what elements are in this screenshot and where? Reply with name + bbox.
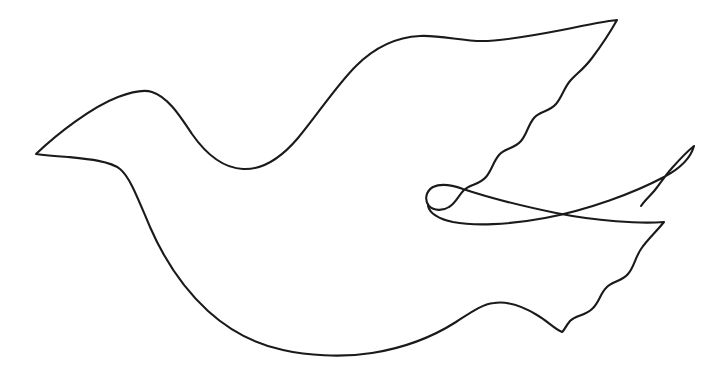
drawing-canvas: Dove Outline Line Drawing: [0, 0, 721, 369]
dove-body-outline: [36, 20, 664, 356]
dove-illustration: [0, 0, 721, 369]
lower-wing-outline: [428, 146, 694, 224]
